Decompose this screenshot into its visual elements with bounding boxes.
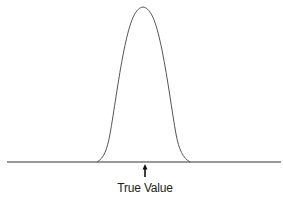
distribution-chart [0, 0, 283, 200]
true-value-label: True Value [0, 181, 283, 195]
bell-curve [97, 7, 190, 162]
true-value-arrow-icon [143, 164, 148, 177]
